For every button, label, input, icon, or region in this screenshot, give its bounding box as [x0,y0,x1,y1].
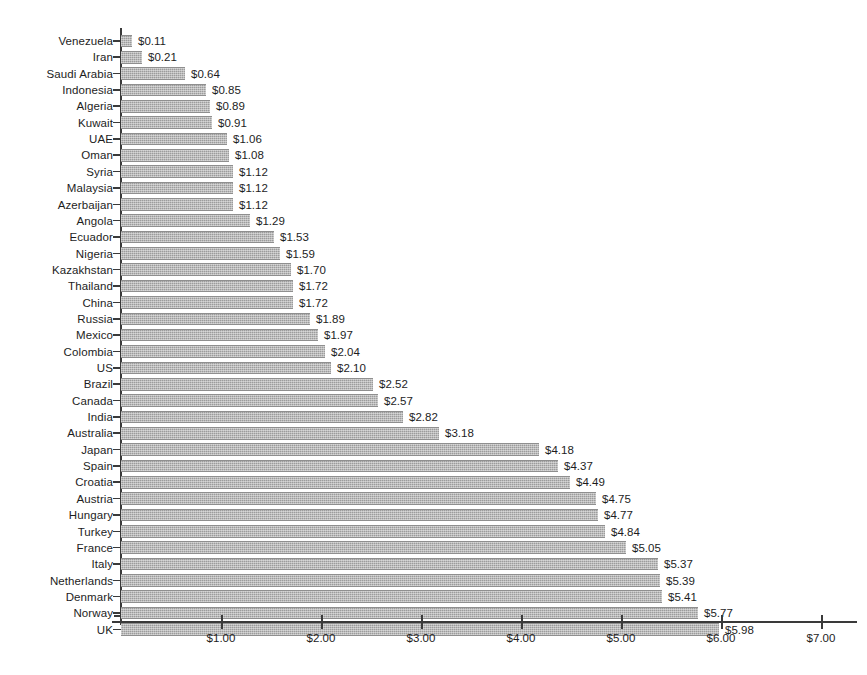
y-axis-tick [113,351,121,353]
y-axis-tick [113,105,121,107]
bar [121,214,250,227]
y-axis-tick [113,531,121,533]
bar-value-label: $5.39 [666,573,695,589]
category-label: Brazil [84,376,113,392]
category-label: Ecuador [69,229,113,245]
bar [121,345,325,358]
x-axis-tick-label: $5.00 [607,632,636,644]
bar [121,509,598,522]
bar-row: Brazil$2.52 [0,376,867,392]
bar-value-label: $0.21 [148,49,177,65]
category-label: Indonesia [62,82,113,98]
x-axis-tick-label: $7.00 [807,632,836,644]
y-axis-tick [113,563,121,565]
bar-value-label: $1.12 [239,164,268,180]
y-axis-tick [113,89,121,91]
bar-row: Canada$2.57 [0,393,867,409]
bar-value-label: $5.41 [668,589,697,605]
bar-row: Norway$5.77 [0,605,867,621]
bar [121,280,293,293]
y-axis-tick [113,269,121,271]
y-axis-tick [113,629,121,631]
bar [121,231,274,244]
category-label: UK [97,622,113,638]
x-axis-tick [421,615,423,629]
bar-value-label: $1.59 [286,246,315,262]
bar-row: Hungary$4.77 [0,507,867,523]
category-label: Iran [93,49,113,65]
bar-value-label: $1.08 [235,147,264,163]
bar [121,67,185,80]
bar [121,427,439,440]
category-label: Algeria [77,98,114,114]
x-axis-tick-label: $1.00 [207,632,236,644]
bar [121,574,660,587]
category-label: US [97,360,113,376]
bar-value-label: $4.37 [564,458,593,474]
category-label: Venezuela [58,33,113,49]
bar [121,492,596,505]
y-axis-tick [113,236,121,238]
bar-value-label: $1.89 [316,311,345,327]
category-label: Nigeria [76,246,113,262]
bar-value-label: $2.04 [331,344,360,360]
y-axis-tick [113,416,121,418]
bar [121,296,293,309]
x-axis-tick-label: $6.00 [707,632,736,644]
category-label: Netherlands [50,573,113,589]
x-axis-tick [721,615,723,629]
bar [121,590,662,603]
bar-value-label: $4.77 [604,507,633,523]
y-axis-tick [113,481,121,483]
category-label: Austria [77,491,114,507]
bar-value-label: $2.57 [384,393,413,409]
bar-value-label: $1.97 [324,327,353,343]
category-label: Australia [67,425,113,441]
category-label: Kazakhstan [52,262,113,278]
bar [121,182,233,195]
bar-value-label: $0.11 [138,33,166,49]
y-axis-tick [113,612,121,614]
x-axis-tick-label: $3.00 [407,632,436,644]
y-axis-tick [113,400,121,402]
y-axis-tick [113,138,121,140]
x-axis-tick-label: $2.00 [307,632,336,644]
category-label: Croatia [75,474,113,490]
bar-row: Denmark$5.41 [0,589,867,605]
bar [121,100,210,113]
x-axis-tick [521,615,523,629]
category-label: Canada [72,393,113,409]
bar-value-label: $1.72 [299,278,328,294]
bar-value-label: $4.84 [611,524,640,540]
y-axis-tick [113,449,121,451]
bar-value-label: $2.82 [409,409,438,425]
bar-row: Nigeria$1.59 [0,246,867,262]
bar-row: Colombia$2.04 [0,344,867,360]
y-axis-tick [113,432,121,434]
y-axis-tick [113,56,121,58]
bar-row: Netherlands$5.39 [0,573,867,589]
category-label: Angola [77,213,113,229]
y-axis-tick [113,334,121,336]
bar-row: Saudi Arabia$0.64 [0,66,867,82]
bar [121,313,310,326]
y-axis-tick [113,171,121,173]
bar-row: Oman$1.08 [0,147,867,163]
y-axis-tick [113,204,121,206]
bar [121,247,280,260]
bar [121,443,539,456]
category-label: UAE [89,131,113,147]
bar-value-label: $5.05 [632,540,661,556]
category-label: Syria [86,164,113,180]
bar-row: France$5.05 [0,540,867,556]
category-label: Japan [81,442,113,458]
bar [121,541,626,554]
bar-row: Venezuela$0.11 [0,33,867,49]
y-axis-tick [113,367,121,369]
bar-row: India$2.82 [0,409,867,425]
bar-value-label: $1.72 [299,295,328,311]
bar-row: Australia$3.18 [0,425,867,441]
bar [121,460,558,473]
bar [121,116,212,129]
category-label: Russia [77,311,113,327]
